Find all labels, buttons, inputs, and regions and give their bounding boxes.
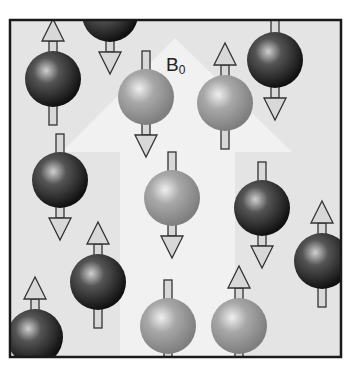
sphere-icon: [140, 298, 196, 354]
sphere-icon: [25, 51, 81, 107]
sphere-icon: [197, 75, 253, 131]
sphere-icon: [234, 180, 290, 236]
sphere-icon: [70, 254, 126, 310]
sphere-icon: [211, 298, 267, 354]
sphere-icon: [144, 170, 200, 226]
sphere-icon: [247, 32, 303, 88]
sphere-icon: [118, 69, 174, 125]
sphere-icon: [32, 152, 88, 208]
field-label: B0: [166, 54, 185, 77]
